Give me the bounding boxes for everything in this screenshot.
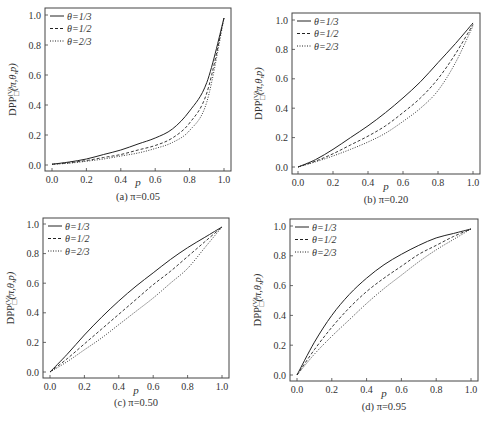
x-tick-label: 0.8 [183, 174, 196, 185]
y-tick-label: 0.0 [27, 367, 40, 378]
y-tick-label: 0.4 [276, 103, 289, 114]
legend-label: θ=1/2 [314, 28, 338, 39]
y-tick-label: 0.0 [276, 162, 289, 173]
x-tick-label: 0.0 [44, 381, 57, 392]
legend: θ=1/3θ=1/2θ=2/3 [297, 16, 338, 52]
x-tick-label: 0.8 [430, 384, 443, 395]
x-tick-label: 1.0 [465, 384, 478, 395]
x-axis-label: p [134, 176, 141, 188]
y-axis-label: DPP(V)□(π,θ,p) [252, 67, 267, 120]
y-tick-label: 0.2 [274, 340, 287, 351]
y-tick-label: 0.8 [29, 40, 42, 51]
panel-caption: (d) π=0.95 [362, 401, 406, 413]
y-tick-label: 1.0 [29, 10, 42, 21]
y-axis-label: DPP(V)□(π,θ,p) [251, 273, 266, 326]
y-tick-label: 0.2 [276, 132, 289, 143]
legend-label: θ=1/3 [65, 221, 89, 232]
legend: θ=1/3θ=1/2θ=2/3 [48, 221, 89, 257]
y-tick-label: 1.0 [274, 221, 287, 232]
x-tick-label: 0.2 [326, 384, 339, 395]
y-tick-label: 1.0 [27, 219, 40, 230]
x-axis-label: p [380, 387, 387, 399]
x-tick-label: 0.6 [395, 384, 408, 395]
x-tick-label: 0.8 [181, 381, 194, 392]
panel-caption: (a) π=0.05 [116, 191, 160, 203]
panel-caption: (b) π=0.20 [364, 194, 408, 206]
x-tick-label: 0.6 [397, 177, 410, 188]
x-tick-label: 0.4 [362, 177, 375, 188]
y-tick-label: 1.0 [276, 15, 289, 26]
y-tick-label: 0.4 [274, 310, 287, 321]
y-tick-label: 0.4 [27, 307, 40, 318]
legend-label: θ=1/2 [65, 233, 89, 244]
y-axis-label: DPP(V)□(π,θ,p) [6, 63, 21, 116]
x-tick-label: 0.6 [149, 174, 162, 185]
chart-panel-a: 0.00.20.40.60.81.00.00.20.40.60.81.0θ=1/… [6, 8, 231, 203]
y-tick-label: 0.4 [29, 100, 42, 111]
x-tick-label: 0.0 [291, 384, 304, 395]
legend-label: θ=1/2 [67, 23, 91, 34]
x-axis-label: p [132, 384, 139, 396]
y-axis-label: DPP(V)□(π,θ,p) [4, 271, 19, 324]
x-tick-label: 0.4 [360, 384, 373, 395]
legend-label: θ=1/3 [314, 16, 338, 27]
x-tick-label: 0.2 [327, 177, 340, 188]
y-tick-label: 0.8 [274, 250, 287, 261]
legend-label: θ=1/3 [312, 222, 336, 233]
x-tick-label: 0.6 [147, 381, 160, 392]
x-tick-label: 0.0 [46, 174, 59, 185]
y-tick-label: 0.8 [27, 248, 40, 259]
y-tick-label: 0.0 [29, 160, 42, 171]
legend: θ=1/3θ=1/2θ=2/3 [50, 11, 91, 47]
x-tick-label: 0.8 [432, 177, 445, 188]
x-axis-label: p [382, 180, 389, 192]
x-tick-label: 1.0 [218, 174, 231, 185]
x-tick-label: 1.0 [216, 381, 229, 392]
panel-caption: (c) π=0.50 [114, 397, 158, 409]
legend-label: θ=2/3 [67, 36, 91, 47]
figure-canvas: 0.00.20.40.60.81.00.00.20.40.60.81.0θ=1/… [0, 0, 486, 425]
y-tick-label: 0.2 [29, 130, 42, 141]
legend-label: θ=1/2 [312, 234, 336, 245]
legend-label: θ=2/3 [314, 41, 338, 52]
chart-panel-c: 0.00.20.40.60.81.00.00.20.40.60.81.0θ=1/… [4, 218, 229, 409]
y-tick-label: 0.6 [276, 73, 289, 84]
x-tick-label: 1.0 [467, 177, 480, 188]
y-tick-label: 0.0 [274, 370, 287, 381]
legend-label: θ=2/3 [65, 246, 89, 257]
x-tick-label: 0.2 [78, 381, 91, 392]
chart-panel-b: 0.00.20.40.60.81.00.00.20.40.60.81.0θ=1/… [252, 13, 480, 206]
x-tick-label: 0.4 [113, 381, 126, 392]
chart-panel-d: 0.00.20.40.60.81.00.00.20.40.60.81.0θ=1/… [251, 219, 478, 413]
y-tick-label: 0.6 [27, 278, 40, 289]
y-tick-label: 0.6 [274, 280, 287, 291]
x-tick-label: 0.2 [80, 174, 93, 185]
legend: θ=1/3θ=1/2θ=2/3 [295, 222, 336, 258]
legend-label: θ=2/3 [312, 247, 336, 258]
y-tick-label: 0.8 [276, 44, 289, 55]
y-tick-label: 0.6 [29, 70, 42, 81]
legend-label: θ=1/3 [67, 11, 91, 22]
x-tick-label: 0.4 [115, 174, 128, 185]
y-tick-label: 0.2 [27, 337, 40, 348]
x-tick-label: 0.0 [292, 177, 305, 188]
